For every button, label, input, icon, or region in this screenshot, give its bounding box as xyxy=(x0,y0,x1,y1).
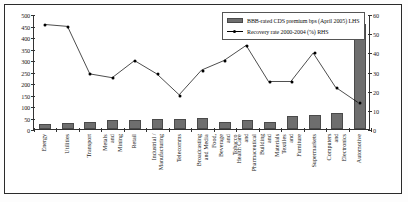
right-tick-40 xyxy=(368,53,372,54)
line-marker-6 xyxy=(179,94,182,97)
x-axis-label-2: Transport xyxy=(87,134,94,157)
x-axis-label-14: Automotive xyxy=(356,134,363,163)
left-tick-250 xyxy=(31,73,35,74)
line-marker-2 xyxy=(89,73,92,76)
line-marker-14 xyxy=(358,102,361,105)
right-tick-50 xyxy=(368,34,372,35)
x-axis-label-6: Telecomms xyxy=(176,134,183,162)
x-axis-label-12: Supermarkets xyxy=(311,134,318,168)
x-tick-5 xyxy=(146,128,147,132)
x-tick-7 xyxy=(191,128,192,132)
x-tick-0 xyxy=(34,128,35,132)
line-marker-12 xyxy=(313,52,316,55)
left-tick-150 xyxy=(31,96,35,97)
x-tick-8 xyxy=(214,128,215,132)
left-tick-400 xyxy=(31,38,35,39)
chart-figure: 050100150200250300350400450500 010203040… xyxy=(0,0,408,202)
x-axis-label-10: Building and Materials xyxy=(259,134,281,157)
line-marker-9 xyxy=(246,44,249,47)
left-tick-100 xyxy=(31,107,35,108)
line-marker-8 xyxy=(223,60,226,63)
x-tick-15 xyxy=(371,128,372,132)
left-tick-450 xyxy=(31,27,35,28)
line-marker-10 xyxy=(268,81,271,84)
line-marker-7 xyxy=(201,69,204,72)
x-axis-label-13: Computers and Electronics xyxy=(326,134,348,161)
line-marker-13 xyxy=(336,86,339,89)
x-tick-14 xyxy=(349,128,350,132)
left-tick-200 xyxy=(31,84,35,85)
x-tick-2 xyxy=(79,128,80,132)
bar-swatch-icon xyxy=(227,18,243,23)
left-tick-500 xyxy=(31,15,35,16)
legend-label-cds-premium: BBB-rated CDS premium bps (April 2005) L… xyxy=(247,18,359,24)
line-marker-3 xyxy=(111,77,114,80)
x-tick-11 xyxy=(281,128,282,132)
legend-label-recovery-rate: Recovery rate 2000-2004 (%) RHS xyxy=(247,29,329,35)
line-marker-0 xyxy=(44,23,47,26)
right-tick-30 xyxy=(368,73,372,74)
line-marker-11 xyxy=(291,81,294,84)
x-axis-label-9: Health Care and Pharmaceutical xyxy=(237,134,259,172)
x-tick-9 xyxy=(236,128,237,132)
line-marker-1 xyxy=(66,25,69,28)
line-swatch-icon xyxy=(227,29,243,34)
x-axis-label-8: Food, Beverage and Tobacco xyxy=(211,134,240,157)
right-tick-60 xyxy=(368,15,372,16)
x-tick-1 xyxy=(56,128,57,132)
right-tick-20 xyxy=(368,92,372,93)
x-tick-3 xyxy=(101,128,102,132)
x-axis-label-4: Retail xyxy=(131,134,138,149)
x-axis-label-7: Broadcasting and Media xyxy=(195,134,209,166)
left-tick-300 xyxy=(31,61,35,62)
x-axis-label-1: Utilities xyxy=(64,134,71,154)
right-tick-10 xyxy=(368,111,372,112)
x-axis-label-0: Energy xyxy=(42,134,49,152)
chart-legend: BBB-rated CDS premium bps (April 2005) L… xyxy=(222,12,365,40)
legend-item-recovery-rate: Recovery rate 2000-2004 (%) RHS xyxy=(227,27,359,36)
x-tick-4 xyxy=(124,128,125,132)
left-tick-350 xyxy=(31,50,35,51)
x-tick-13 xyxy=(326,128,327,132)
x-tick-12 xyxy=(304,128,305,132)
x-axis-label-3: Metals and Mining xyxy=(102,134,124,152)
x-tick-6 xyxy=(169,128,170,132)
line-marker-4 xyxy=(134,60,137,63)
line-marker-5 xyxy=(156,73,159,76)
x-axis-label-11: Textiles and Furniture xyxy=(282,134,304,157)
x-axis-label-5: Industrial / Manufacturing xyxy=(150,134,164,170)
legend-item-cds-premium: BBB-rated CDS premium bps (April 2005) L… xyxy=(227,16,359,25)
x-tick-10 xyxy=(259,128,260,132)
left-tick-50 xyxy=(31,119,35,120)
